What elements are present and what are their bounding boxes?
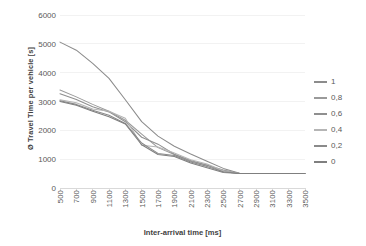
legend-swatch-icon [314,161,327,162]
legend-swatch-icon [314,145,327,146]
x-tick-label: 3300 [285,190,294,208]
x-tick-label: 2900 [252,190,261,208]
y-tick-label: 5000 [18,39,56,48]
legend-item[interactable]: 0 [314,154,364,170]
legend-label: 0,8 [331,94,342,102]
x-tick-label: 1700 [154,190,163,208]
line-chart: Ø Travel Time per vehicle [s] 0100020003… [0,0,366,246]
plot-svg [60,15,305,188]
legend-label: 0,2 [331,142,342,150]
legend-item[interactable]: 0,2 [314,138,364,154]
plot-area [60,15,305,188]
x-tick-label: 2700 [236,190,245,208]
y-tick-label: 3000 [18,97,56,106]
y-tick-label: 4000 [18,68,56,77]
y-axis-tick-labels: 0100020003000400050006000 [18,0,56,246]
legend: 10,80,60,40,20 [314,74,364,170]
y-tick-label: 0 [18,184,56,193]
x-tick-label: 500 [56,190,65,203]
x-tick-label: 3500 [301,190,310,208]
legend-label: 1 [331,78,335,86]
legend-swatch-icon [314,113,327,114]
x-tick-label: 1500 [138,190,147,208]
series-line-08 [60,90,305,174]
x-tick-label: 900 [89,190,98,203]
x-tick-label: 1300 [121,190,130,208]
x-tick-label: 1900 [170,190,179,208]
legend-item[interactable]: 1 [314,74,364,90]
x-tick-label: 1100 [105,190,114,207]
series-line-0 [60,102,305,174]
x-tick-label: 2500 [219,190,228,208]
legend-item[interactable]: 0,6 [314,106,364,122]
legend-swatch-icon [314,97,327,98]
legend-label: 0,4 [331,126,342,134]
series-line-02 [60,101,305,174]
x-axis-title: Inter-arrival time [ms] [60,228,305,237]
x-tick-label: 700 [72,190,81,203]
x-axis-tick-labels: 5007009001100130015001700190021002300250… [60,190,305,226]
legend-item[interactable]: 0,8 [314,90,364,106]
x-tick-label: 3100 [268,190,277,208]
x-tick-label: 2300 [203,190,212,208]
legend-label: 0 [331,158,335,166]
legend-label: 0,6 [331,110,342,118]
legend-swatch-icon [314,129,327,130]
legend-swatch-icon [314,81,327,82]
y-tick-label: 1000 [18,155,56,164]
legend-item[interactable]: 0,4 [314,122,364,138]
y-tick-label: 2000 [18,126,56,135]
x-tick-label: 2100 [187,190,196,208]
y-tick-label: 6000 [18,11,56,20]
series-line-04 [60,100,305,174]
